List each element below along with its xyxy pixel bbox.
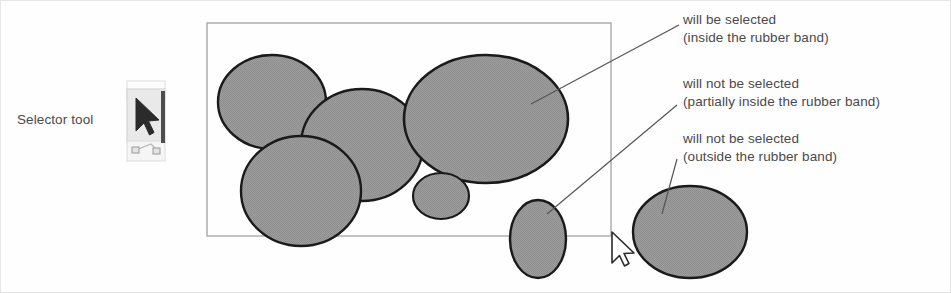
annotation-partial-line2: (partially inside the rubber band) — [683, 93, 880, 111]
figure-canvas: Selector tool will be selected (inside t… — [0, 0, 951, 293]
annotation-outside: will not be selected (outside the rubber… — [683, 130, 837, 165]
annotation-inside: will be selected (inside the rubber band… — [683, 11, 829, 46]
annotation-outside-line1: will not be selected — [683, 131, 799, 146]
mouse-arrow-pointer-icon — [612, 232, 634, 266]
ellipse-bottom-left[interactable] — [241, 136, 361, 246]
ellipse-far-right[interactable] — [633, 186, 747, 278]
annotation-partial-line1: will not be selected — [683, 76, 799, 91]
ellipse-big-right[interactable] — [404, 55, 568, 183]
annotation-inside-line2: (inside the rubber band) — [683, 29, 829, 47]
selector-tool-label: Selector tool — [17, 112, 93, 127]
ellipse-straddle[interactable] — [510, 200, 566, 278]
annotation-inside-line1: will be selected — [683, 12, 776, 27]
ellipse-small-mid[interactable] — [413, 173, 469, 219]
annotation-outside-line2: (outside the rubber band) — [683, 148, 837, 166]
selector-tool-icon-graphic[interactable] — [127, 81, 165, 161]
annotation-partial: will not be selected (partially inside t… — [683, 75, 880, 110]
leader-line-inside — [531, 25, 679, 104]
shapes-group — [218, 55, 747, 278]
